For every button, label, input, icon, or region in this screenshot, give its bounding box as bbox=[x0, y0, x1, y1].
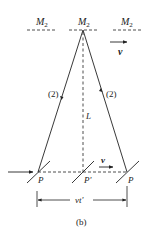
light-path-up bbox=[38, 30, 83, 172]
mirror-label-left: M2 bbox=[35, 16, 48, 29]
length-label: L bbox=[85, 111, 91, 121]
distance-label: vt' bbox=[75, 195, 84, 205]
mirror-label-center: M2 bbox=[77, 16, 90, 29]
path-label-left: (2) bbox=[48, 89, 59, 99]
figure-caption: (b) bbox=[76, 217, 87, 227]
velocity-label-bottom: v bbox=[101, 155, 106, 165]
point-label-P-prime: P' bbox=[83, 175, 92, 185]
path-label-right: (2) bbox=[106, 89, 117, 99]
michelson-moving-frame-diagram: M2 M2 M2 v (2) (2) L P P' P v vt' (b) bbox=[0, 0, 149, 239]
point-label-P-right: P bbox=[127, 175, 134, 185]
mirror-label-right: M2 bbox=[120, 16, 133, 29]
point-label-P-left: P bbox=[37, 175, 44, 185]
arrow-up-icon bbox=[60, 96, 64, 100]
velocity-label-top: v bbox=[118, 46, 123, 57]
